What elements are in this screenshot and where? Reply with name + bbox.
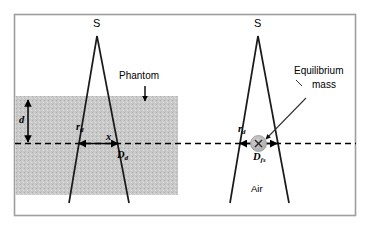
right-diameter-subscript: fs xyxy=(261,156,266,164)
right-radius-label: rd xyxy=(238,124,246,136)
right-diameter-label: Dfs xyxy=(253,152,266,164)
right-radius-subscript: d xyxy=(242,128,246,136)
depth-label: d xyxy=(19,115,24,126)
figure-canvas: S S Phantom d rd x Dd rd Dfs Equilibrium… xyxy=(0,0,371,229)
left-radius-subscript: d xyxy=(80,126,84,134)
left-diameter-label: Dd xyxy=(117,150,128,162)
right-diameter-symbol: D xyxy=(253,151,261,162)
right-source-label: S xyxy=(254,18,261,29)
diagram-svg xyxy=(0,0,371,229)
equilibrium-mass-label-line2: mass xyxy=(312,80,336,90)
equilibrium-mass-marker xyxy=(251,136,267,152)
left-diameter-symbol: D xyxy=(117,149,125,160)
left-source-label: S xyxy=(93,18,100,29)
phantom-region xyxy=(16,96,179,195)
phantom-label: Phantom xyxy=(119,71,159,81)
equilibrium-mass-label-line1: Equilibrium xyxy=(294,66,343,76)
left-diameter-subscript: d xyxy=(125,154,129,162)
left-radius-label: rd xyxy=(76,122,84,134)
left-distance-label: x xyxy=(106,132,111,143)
right-beam-cone xyxy=(230,36,289,203)
air-label: Air xyxy=(251,184,263,194)
